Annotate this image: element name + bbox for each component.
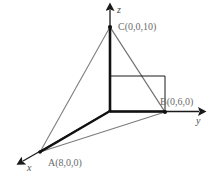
x-axis-label: x xyxy=(26,162,32,173)
axis-segments xyxy=(40,27,165,152)
vertex-markers xyxy=(38,25,167,154)
vertex-point-b xyxy=(163,110,167,114)
triangle-edges xyxy=(40,27,165,152)
y-axis-label: y xyxy=(195,115,201,126)
segment-origin-a xyxy=(40,111,110,152)
coordinate-figure: C(0,0,10) B(0,6,0) A(8,0,0) z y x xyxy=(0,0,219,176)
vertex-label-b: B(0,6,0) xyxy=(160,96,193,108)
figure-canvas: C(0,0,10) B(0,6,0) A(8,0,0) z y x xyxy=(0,0,219,176)
projection-box xyxy=(110,76,165,112)
vertex-point-c xyxy=(108,25,112,29)
vertex-point-a xyxy=(38,150,42,154)
z-axis-label: z xyxy=(116,4,121,15)
origin-point xyxy=(109,110,112,113)
edge-c-b xyxy=(110,27,165,112)
vertex-label-c: C(0,0,10) xyxy=(118,21,156,33)
vertex-label-a: A(8,0,0) xyxy=(48,157,82,169)
